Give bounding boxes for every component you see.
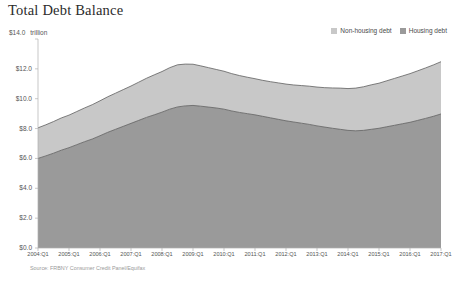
x-axis-tick-label: 2013:Q1 xyxy=(306,251,327,257)
x-axis-tick-label: 2015:Q1 xyxy=(368,251,389,257)
x-axis-tick-label: 2014:Q1 xyxy=(337,251,358,257)
x-axis-tick-label: 2010:Q1 xyxy=(213,251,234,257)
x-axis-tick-label: 2009:Q1 xyxy=(182,251,203,257)
x-axis-tick-label: 2008:Q1 xyxy=(151,251,172,257)
x-axis-tick-label: 2004:Q1 xyxy=(27,251,48,257)
x-axis-tick-label: 2016:Q1 xyxy=(399,251,420,257)
y-axis-tick-label: $6.0 xyxy=(2,154,32,161)
x-axis-tick-label: 2006:Q1 xyxy=(89,251,110,257)
y-axis-tick-label: $0.0 xyxy=(2,244,32,251)
x-axis-tick-label: 2017:Q1 xyxy=(430,251,451,257)
plot-area: $12.0$10.0$8.0$6.0$4.0$2.0$0.0 2004:Q120… xyxy=(0,0,455,288)
y-axis-tick-label: $4.0 xyxy=(2,184,32,191)
y-axis-tick-label: $10.0 xyxy=(2,95,32,102)
source-note: Source: FRBNY Consumer Credit Panel/Equi… xyxy=(30,265,145,271)
x-axis-tick-label: 2011:Q1 xyxy=(244,251,265,257)
x-axis-tick-label: 2005:Q1 xyxy=(58,251,79,257)
y-axis-tick-label: $2.0 xyxy=(2,214,32,221)
x-axis-tick-label: 2012:Q1 xyxy=(275,251,296,257)
y-axis-tick-label: $12.0 xyxy=(2,65,32,72)
x-axis-tick-label: 2007:Q1 xyxy=(120,251,141,257)
y-axis-tick-label: $8.0 xyxy=(2,125,32,132)
chart-svg xyxy=(0,0,455,288)
chart-container: Total Debt Balance $14.0trillion Non-hou… xyxy=(0,0,455,288)
